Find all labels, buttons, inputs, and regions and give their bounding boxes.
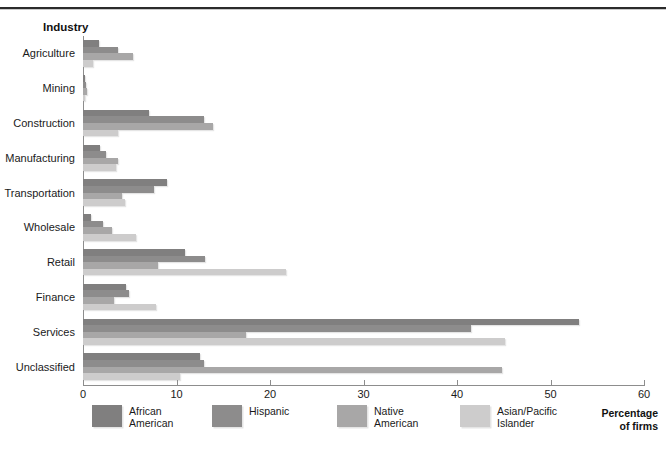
bar-native-american-retail bbox=[83, 262, 158, 269]
bar-asian-pacific-islander-retail bbox=[83, 269, 286, 276]
x-tick bbox=[551, 380, 552, 386]
category-row: Construction bbox=[83, 106, 644, 141]
x-tick-label: 0 bbox=[80, 388, 86, 400]
category-row: Services bbox=[83, 314, 644, 349]
bar-african-american-retail bbox=[83, 249, 185, 256]
category-row: Finance bbox=[83, 280, 644, 315]
legend-label: African American bbox=[129, 405, 173, 429]
chart-page: Industry AgricultureMiningConstructionMa… bbox=[0, 0, 666, 458]
bar-asian-pacific-islander-mining bbox=[83, 95, 85, 102]
x-tick-label: 40 bbox=[451, 388, 463, 400]
bar-asian-pacific-islander-wholesale bbox=[83, 234, 136, 241]
category-label: Services bbox=[33, 326, 75, 338]
legend-swatch bbox=[460, 405, 490, 427]
category-label: Agriculture bbox=[22, 47, 75, 59]
bar-asian-pacific-islander-manufacturing bbox=[83, 164, 116, 171]
bar-hispanic-finance bbox=[83, 290, 129, 297]
category-label: Retail bbox=[47, 256, 75, 268]
x-tick bbox=[83, 380, 84, 386]
bar-asian-pacific-islander-agriculture bbox=[83, 60, 93, 67]
category-label: Unclassified bbox=[16, 361, 75, 373]
bar-asian-pacific-islander-services bbox=[83, 338, 505, 345]
category-row: Wholesale bbox=[83, 210, 644, 245]
legend-swatch bbox=[92, 405, 122, 427]
plot-area: AgricultureMiningConstructionManufacturi… bbox=[83, 36, 644, 384]
category-row: Unclassified bbox=[83, 349, 644, 384]
bar-native-american-agriculture bbox=[83, 53, 133, 60]
category-row: Manufacturing bbox=[83, 140, 644, 175]
bar-african-american-manufacturing bbox=[83, 145, 100, 152]
category-label: Finance bbox=[36, 291, 75, 303]
bar-hispanic-manufacturing bbox=[83, 151, 106, 158]
bar-african-american-mining bbox=[83, 75, 85, 82]
bar-hispanic-retail bbox=[83, 256, 205, 263]
x-tick bbox=[457, 380, 458, 386]
x-tick-label: 30 bbox=[357, 388, 369, 400]
x-tick-label: 10 bbox=[170, 388, 182, 400]
category-row: Retail bbox=[83, 245, 644, 280]
legend-item[interactable]: African American bbox=[92, 405, 173, 429]
legend-swatch bbox=[212, 405, 242, 427]
bar-native-american-services bbox=[83, 332, 246, 339]
category-row: Transportation bbox=[83, 175, 644, 210]
bar-hispanic-transportation bbox=[83, 186, 154, 193]
bar-hispanic-construction bbox=[83, 116, 204, 123]
bar-african-american-agriculture bbox=[83, 40, 99, 47]
legend-swatch bbox=[337, 405, 367, 427]
bar-african-american-finance bbox=[83, 284, 126, 291]
x-tick-label: 60 bbox=[638, 388, 650, 400]
x-tick bbox=[270, 380, 271, 386]
bar-native-american-transportation bbox=[83, 193, 122, 200]
bar-hispanic-mining bbox=[83, 82, 86, 89]
x-tick bbox=[364, 380, 365, 386]
category-label: Manufacturing bbox=[5, 152, 75, 164]
bar-asian-pacific-islander-construction bbox=[83, 130, 118, 137]
legend-item[interactable]: Asian/Pacific Islander bbox=[460, 405, 557, 429]
category-label: Transportation bbox=[4, 187, 75, 199]
legend-label: Native American bbox=[374, 405, 418, 429]
bar-native-american-wholesale bbox=[83, 227, 112, 234]
bar-native-american-finance bbox=[83, 297, 114, 304]
legend-item[interactable]: Native American bbox=[337, 405, 418, 429]
x-tick bbox=[177, 380, 178, 386]
chart-legend: African AmericanHispanicNative AmericanA… bbox=[92, 405, 542, 445]
bar-native-american-manufacturing bbox=[83, 158, 118, 165]
category-label: Wholesale bbox=[24, 221, 75, 233]
bar-hispanic-services bbox=[83, 325, 471, 332]
category-label: Mining bbox=[43, 82, 75, 94]
bar-native-american-mining bbox=[83, 88, 87, 95]
bar-african-american-wholesale bbox=[83, 214, 91, 221]
x-axis-title: Percentage of firms bbox=[568, 407, 658, 432]
x-tick bbox=[644, 380, 645, 386]
top-rule-shadow bbox=[0, 9, 666, 10]
category-row: Agriculture bbox=[83, 36, 644, 71]
category-row: Mining bbox=[83, 71, 644, 106]
bar-asian-pacific-islander-transportation bbox=[83, 199, 125, 206]
bar-african-american-unclassified bbox=[83, 353, 200, 360]
bar-hispanic-agriculture bbox=[83, 47, 118, 54]
bar-african-american-construction bbox=[83, 110, 149, 117]
bar-asian-pacific-islander-finance bbox=[83, 304, 156, 311]
bar-native-american-construction bbox=[83, 123, 213, 130]
legend-label: Hispanic bbox=[249, 405, 289, 418]
bar-native-american-unclassified bbox=[83, 367, 502, 374]
bar-hispanic-wholesale bbox=[83, 221, 103, 228]
category-label: Construction bbox=[13, 117, 75, 129]
x-tick-label: 50 bbox=[544, 388, 556, 400]
x-tick-label: 20 bbox=[264, 388, 276, 400]
bar-african-american-transportation bbox=[83, 179, 167, 186]
bar-asian-pacific-islander-unclassified bbox=[83, 373, 180, 380]
bar-african-american-services bbox=[83, 319, 579, 326]
legend-label: Asian/Pacific Islander bbox=[497, 405, 557, 429]
industry-axis-heading: Industry bbox=[43, 21, 88, 33]
legend-item[interactable]: Hispanic bbox=[212, 405, 289, 427]
bar-hispanic-unclassified bbox=[83, 360, 204, 367]
